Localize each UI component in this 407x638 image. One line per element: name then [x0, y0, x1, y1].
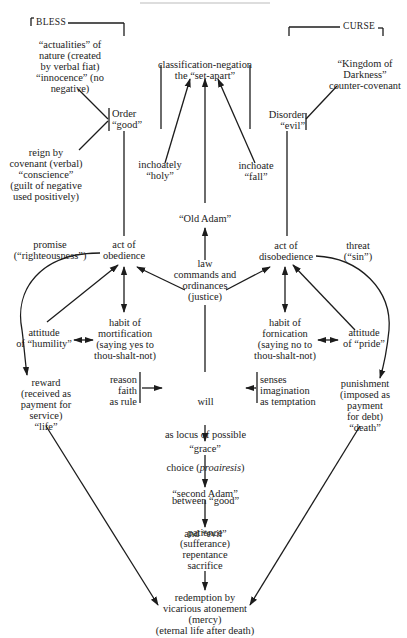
node-grace: “grace” — [175, 443, 235, 454]
node-act-of-disobedience: act of disobedience — [250, 240, 322, 262]
node-second-adam: “second Adam” — [160, 488, 250, 499]
node-attitude-pride: attitude of “pride” — [336, 327, 392, 349]
node-disorder-evil: Disorder “evil” — [268, 109, 305, 131]
node-punishment-death: punishment (imposed as payment for debt)… — [330, 378, 400, 433]
node-promise-righteousness: promise (“righteousness”) — [10, 239, 90, 261]
node-law-commands: law commands and ordinances (justice) — [160, 258, 250, 302]
node-attitude-humility: attitude of “humility” — [14, 327, 74, 349]
node-patience-sacrifice: patience (sufferance) repentance sacrifi… — [160, 527, 250, 571]
node-inchoately-holy: inchoately “holy” — [130, 159, 190, 181]
proairesis-term: proairesis — [200, 462, 241, 473]
will-line-3-pre: choice ( — [166, 462, 199, 473]
bless-heading: BLESS — [36, 17, 66, 27]
node-reward-life: reward (received as payment for service)… — [14, 377, 78, 432]
node-classification-negation: classification-negation the “set-apart” — [150, 59, 260, 81]
node-redemption: redemption by vicarious atonement (mercy… — [140, 592, 270, 636]
node-reason-faith: reason faith as rule — [100, 374, 137, 407]
node-habit-of-mortification: habit of mortification (saying yes to th… — [88, 317, 162, 361]
curse-heading: CURSE — [343, 21, 375, 31]
node-senses-imagination: senses imagination as temptation — [260, 374, 316, 407]
node-will-locus-of-choice: will as locus of possible choice (proair… — [148, 374, 263, 550]
node-old-adam: “Old Adam” — [165, 213, 245, 224]
node-habit-of-fornication: habit of fornication (saying no to thou-… — [248, 317, 322, 361]
node-order-good: Order “good” — [112, 108, 142, 130]
will-line-3-post: ) — [241, 462, 244, 473]
will-line-1: will — [148, 396, 263, 407]
will-line-3: choice (proairesis) — [148, 462, 263, 473]
node-actualities-of-nature: “actualities” of nature (created by verb… — [20, 39, 120, 94]
will-line-2: as locus of possible — [148, 429, 263, 440]
node-reign-by-covenant: reign by covenant (verbal) “conscience” … — [5, 147, 87, 202]
node-threat-sin: threat (“sin”) — [333, 240, 383, 262]
node-kingdom-of-darkness: “Kingdom of Darkness” counter-covenant — [320, 58, 407, 91]
node-act-of-obedience: act of obedience — [92, 239, 156, 261]
node-inchoate-fall: inchoate “fall” — [230, 160, 282, 182]
